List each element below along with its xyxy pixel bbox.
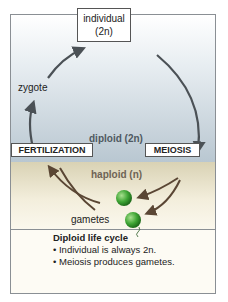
individual-ploidy: (2n) [78,25,130,38]
arrow-gamete-to-fertilization-2 [60,168,95,210]
legend: Diploid life cycle • Individual is alway… [53,232,175,268]
legend-bullet: • Individual is always 2n. [53,244,175,256]
legend-bullet: • Meiosis produces gametes. [53,256,175,268]
arrow-zygote-to-individual [48,49,82,78]
haploid-zone-label: haploid (n) [91,169,142,180]
arrow-fertilization-to-zygote [30,104,33,148]
legend-title: Diploid life cycle [53,232,175,244]
fertilization-box: FERTILIZATION [11,143,93,157]
diploid-zone-label: diploid (2n) [89,133,143,144]
gamete-sperm-icon [125,212,141,228]
gametes-label: gametes [71,214,109,225]
arrow-individual-to-meiosis [157,55,199,150]
meiosis-box: MEIOSIS [145,143,200,157]
arrow-meiosis-to-gamete-2 [148,180,180,213]
individual-box: individual (2n) [77,8,131,42]
zygote-label: zygote [18,82,47,93]
individual-label: individual [78,12,130,25]
gamete-egg-icon [116,190,132,206]
